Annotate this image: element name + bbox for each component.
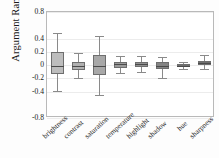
box-plot-item [135,12,148,118]
x-tick-label: hue [166,119,188,140]
whisker-cap-lower [116,73,124,74]
whisker-cap-lower [179,69,187,70]
whisker-cap-lower [158,78,166,79]
whisker-cap-upper [179,62,187,63]
x-axis-tick-labels: brightnesscontrastsaturationtemperatureh… [46,117,214,158]
box-plot-item [177,12,190,118]
median-line [135,64,148,65]
whisker-cap-upper [158,57,166,58]
median-line [156,66,169,67]
box-plot-item [72,12,85,118]
boxplot-figure: Argument Range 0.80.40.20-0.2-0.4-0.8 br… [0,0,219,158]
median-line [114,64,127,65]
x-tick-label: sharpness [187,119,209,140]
box-plot-item [93,12,106,118]
plot-area [46,11,214,117]
whisker-upper [99,36,100,55]
whisker-cap-upper [200,55,208,56]
whisker-cap-lower [200,69,208,70]
median-line [72,66,85,67]
whisker-upper [78,53,79,62]
whisker-lower [57,74,58,91]
whisker-cap-lower [53,91,61,92]
whisker-cap-lower [137,72,145,73]
box-quartile-rect [51,52,64,75]
whisker-cap-upper [116,56,124,57]
whisker-upper [57,33,58,52]
y-tick-label: 0.4 [22,33,44,42]
y-tick-label: 0.8 [22,7,44,16]
box-series [47,12,213,116]
whisker-cap-upper [53,33,61,34]
y-tick-label: 0 [22,60,44,69]
whisker-cap-lower [74,78,82,79]
whisker-lower [162,69,163,78]
whisker-cap-upper [95,36,103,37]
whisker-cap-upper [74,53,82,54]
median-line [51,66,64,67]
median-line [177,66,190,67]
x-tick-label: saturation [82,119,104,140]
box-plot-item [156,12,169,118]
whisker-cap-lower [95,95,103,96]
median-line [93,66,106,67]
y-tick-label: 0.2 [22,46,44,55]
box-plot-item [114,12,127,118]
y-tick-label: -0.2 [22,73,44,82]
box-plot-item [198,12,211,118]
median-line [198,63,211,64]
y-tick-label: -0.4 [22,86,44,95]
y-tick-label: -0.8 [22,113,44,122]
box-plot-item [51,12,64,118]
box-quartile-rect [93,55,106,75]
whisker-lower [78,70,79,79]
whisker-lower [99,75,100,96]
whisker-cap-upper [137,56,145,57]
